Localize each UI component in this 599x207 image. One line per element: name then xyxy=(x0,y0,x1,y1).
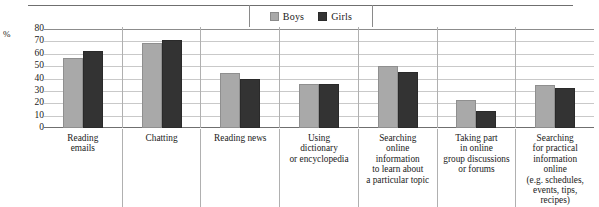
legend-item-boys: Boys xyxy=(270,11,304,22)
category-label-line: dictionary xyxy=(282,143,356,153)
y-axis-unit-label: % xyxy=(3,29,11,39)
y-tick-50: 50 xyxy=(18,61,44,70)
category-label-line: Using xyxy=(282,133,356,143)
category-label-line: for practical xyxy=(518,143,592,153)
legend-item-girls: Girls xyxy=(318,11,352,22)
bar-boys-3 xyxy=(220,73,240,128)
category-label-line: information xyxy=(518,154,592,164)
bar-group-3 xyxy=(201,27,280,128)
category-label-line: Searching xyxy=(518,133,592,143)
bar-group-2 xyxy=(123,27,202,128)
y-tick-30: 30 xyxy=(18,86,44,95)
category-label-line: or encyclopedia xyxy=(282,154,356,164)
bar-group-4 xyxy=(280,27,359,128)
bar-girls-7 xyxy=(555,88,575,128)
bar-group-5 xyxy=(359,27,438,128)
bar-groups xyxy=(44,27,594,128)
category-label-2: Chatting xyxy=(123,129,202,207)
y-tick-60: 60 xyxy=(18,49,44,58)
bar-girls-1 xyxy=(83,51,103,128)
bar-group-6 xyxy=(438,27,517,128)
bar-group-7 xyxy=(516,27,594,128)
category-label-4: Usingdictionaryor encyclopedia xyxy=(280,129,359,207)
category-label-3: Reading news xyxy=(201,129,280,207)
category-label-line: or forums xyxy=(440,164,514,174)
category-label-line: Taking part xyxy=(440,133,514,143)
category-label-line: group discussions xyxy=(440,154,514,164)
bar-girls-5 xyxy=(398,72,418,128)
bar-boys-5 xyxy=(378,66,398,128)
legend-box: Boys Girls xyxy=(249,5,373,27)
y-tick-20: 20 xyxy=(18,98,44,107)
bar-boys-2 xyxy=(142,43,162,128)
bar-girls-4 xyxy=(319,84,339,128)
y-axis-tick-labels: 80 70 60 50 40 30 20 10 0 xyxy=(18,27,44,134)
bar-girls-6 xyxy=(476,111,496,128)
bar-chart: Boys Girls % 80 70 60 50 40 30 20 10 0 xyxy=(0,0,599,207)
y-tick-0: 0 xyxy=(18,123,44,132)
bar-boys-7 xyxy=(535,85,555,128)
bar-girls-3 xyxy=(240,79,260,128)
category-label-7: Searchingfor practicalinformationonline(… xyxy=(516,129,594,207)
category-label-1: Readingemails xyxy=(44,129,123,207)
category-label-line: online xyxy=(518,164,592,174)
category-labels: ReadingemailsChattingReading newsUsingdi… xyxy=(44,129,594,207)
y-tick-70: 70 xyxy=(18,36,44,45)
legend-label-boys: Boys xyxy=(283,11,304,22)
category-label-line: Reading xyxy=(46,133,120,143)
category-label-line: emails xyxy=(46,143,120,153)
category-label-line: online xyxy=(361,143,435,153)
category-label-line: to learn about xyxy=(361,164,435,174)
category-label-line: a particular topic xyxy=(361,175,435,185)
category-label-line: Searching xyxy=(361,133,435,143)
chart-legend: Boys Girls xyxy=(0,0,599,27)
category-label-line: Chatting xyxy=(125,133,199,143)
legend-label-girls: Girls xyxy=(331,11,352,22)
legend-swatch-girls-icon xyxy=(318,12,327,21)
bar-girls-2 xyxy=(162,40,182,128)
y-tick-40: 40 xyxy=(18,74,44,83)
y-tick-10: 10 xyxy=(18,111,44,120)
bar-boys-6 xyxy=(456,100,476,128)
category-label-6: Taking partin onlinegroup discussionsor … xyxy=(438,129,517,207)
legend-swatch-boys-icon xyxy=(270,12,279,21)
bar-boys-4 xyxy=(299,84,319,128)
category-label-line: (e.g. schedules, xyxy=(518,175,592,185)
bar-group-1 xyxy=(44,27,123,128)
bar-boys-1 xyxy=(63,58,83,128)
category-label-line: information xyxy=(361,154,435,164)
category-label-line: Reading news xyxy=(203,133,277,143)
category-label-line: events, tips, recipes) xyxy=(518,185,592,206)
plot-area: % 80 70 60 50 40 30 20 10 0 Readingemail… xyxy=(0,27,599,207)
y-tick-80: 80 xyxy=(18,24,44,33)
category-label-line: in online xyxy=(440,143,514,153)
category-label-5: Searchingonlineinformationto learn about… xyxy=(359,129,438,207)
